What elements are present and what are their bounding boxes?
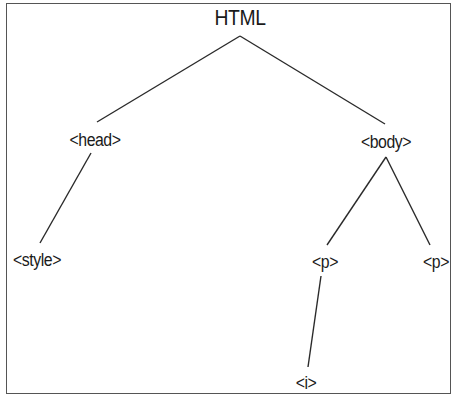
tree-edges [0, 0, 461, 399]
edge-html-head [97, 36, 240, 122]
edge-head-style [40, 153, 91, 243]
node-html: HTML [215, 5, 266, 31]
edge-p1-i [308, 276, 321, 367]
node-p-second: <p> [423, 252, 449, 273]
edge-body-p2 [386, 157, 430, 245]
node-i: <i> [296, 373, 317, 394]
edge-html-body [240, 36, 385, 124]
edge-body-p1 [327, 157, 386, 245]
node-body: <body> [361, 132, 411, 153]
node-head: <head> [69, 130, 120, 151]
node-p-first: <p> [312, 252, 338, 273]
node-style: <style> [13, 250, 61, 271]
